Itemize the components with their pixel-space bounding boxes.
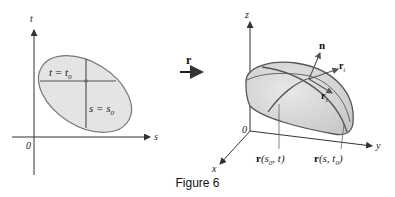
figure-canvas: t s 0 t = t0 s = s0 r z y x 0 n rt rs r(…	[0, 0, 395, 197]
origin-label-3d: 0	[242, 124, 247, 135]
y-axis	[250, 131, 372, 146]
z-axis-label: z	[244, 9, 249, 20]
r-t-label: rt	[339, 60, 345, 73]
surface-plot: z y x 0 n rt rs r(s0, t) r(s, t0)	[211, 9, 381, 174]
normal-label: n	[319, 39, 325, 51]
s-axis-label: s	[154, 131, 158, 142]
x-axis-label: x	[211, 163, 217, 174]
figure-caption: Figure 6	[0, 176, 395, 190]
origin-label: 0	[26, 140, 31, 151]
intersection-point	[84, 79, 88, 83]
t-axis-label: t	[30, 13, 33, 24]
y-axis-label: y	[375, 140, 381, 151]
parameter-domain-plot: t s 0 t = t0 s = s0	[12, 13, 158, 175]
mapping-label: r	[186, 53, 192, 67]
parametric-surface	[246, 62, 353, 134]
curve-label-r-s-t0: r(s, t0)	[314, 152, 343, 167]
curve-label-r-s0-t: r(s0, t)	[256, 152, 285, 167]
mapping-arrow: r	[180, 53, 202, 72]
x-axis	[220, 131, 250, 164]
domain-region	[25, 40, 145, 148]
